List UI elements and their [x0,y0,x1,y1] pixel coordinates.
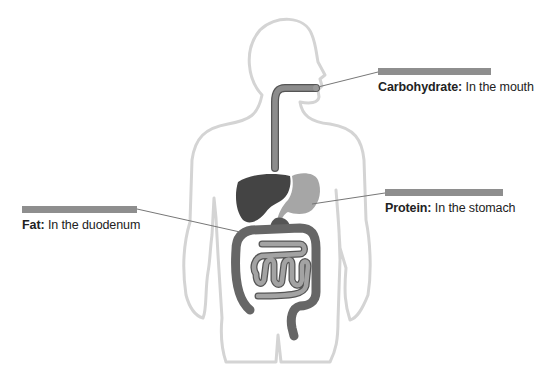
esophagus [275,88,316,168]
nutrient-name: Carbohydrate: [378,80,462,94]
mouth-marker [313,85,319,91]
digestion-location: In the mouth [466,80,534,94]
digestion-location: In the stomach [435,201,516,215]
carbohydrate-label-bar [378,68,491,75]
carbohydrate-label: Carbohydrate: In the mouth [378,80,534,94]
fat-label-bar [22,206,137,213]
protein-label: Protein: In the stomach [385,201,515,215]
small-intestine [254,244,308,296]
digestion-location: In the duodenum [48,218,140,232]
fat-label: Fat: In the duodenum [22,218,140,232]
protein-label-bar [385,189,503,196]
nutrient-name: Fat: [22,218,45,232]
nutrient-name: Protein: [385,201,431,215]
